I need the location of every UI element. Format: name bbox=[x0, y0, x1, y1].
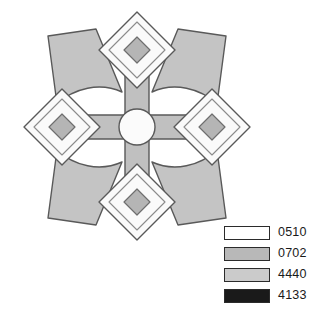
legend-label-0702: 0702 bbox=[278, 247, 307, 260]
legend-row[interactable]: 4133 bbox=[224, 285, 318, 306]
legend-swatch-0702 bbox=[224, 247, 270, 261]
legend-label-4440: 4440 bbox=[278, 268, 307, 281]
legend-row[interactable]: 0510 bbox=[224, 222, 318, 243]
legend-row[interactable]: 4440 bbox=[224, 264, 318, 285]
legend-swatch-0510 bbox=[224, 226, 270, 240]
legend-swatch-4133 bbox=[224, 289, 270, 303]
legend-row[interactable]: 0702 bbox=[224, 243, 318, 264]
legend-swatch-4440 bbox=[224, 268, 270, 282]
diamond-right bbox=[174, 89, 250, 165]
figure-root: 0510 0702 4440 4133 bbox=[0, 0, 321, 331]
diamond-left bbox=[24, 89, 100, 165]
color-legend: 0510 0702 4440 4133 bbox=[224, 222, 318, 306]
legend-label-0510: 0510 bbox=[278, 226, 307, 239]
legend-label-4133: 4133 bbox=[278, 289, 307, 302]
center-circle bbox=[119, 109, 155, 145]
